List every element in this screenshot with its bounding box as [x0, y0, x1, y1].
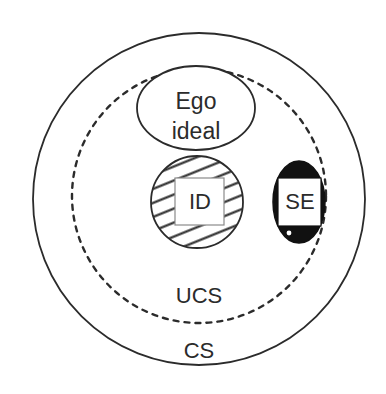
- psychic-structure-diagram: Ego ideal ID SE UCS CS: [0, 0, 386, 394]
- cs-label: CS: [184, 338, 215, 363]
- ego-ideal-label-line2: ideal: [172, 118, 221, 144]
- ego-ideal-label-line1: Ego: [176, 88, 217, 114]
- id-label: ID: [189, 189, 211, 214]
- se-white-dot: [287, 231, 292, 236]
- se-label: SE: [285, 189, 314, 214]
- diagram-canvas: Ego ideal ID SE UCS CS: [0, 0, 386, 394]
- ucs-label: UCS: [176, 283, 222, 308]
